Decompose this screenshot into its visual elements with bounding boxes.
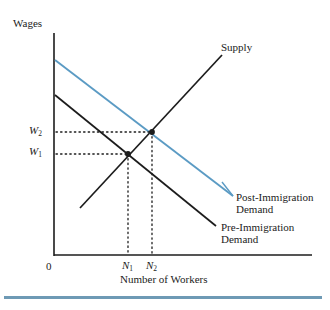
wage-tick-w1-subscript: 1 (38, 150, 42, 159)
bottom-divider (4, 296, 322, 299)
workers-tick-n1: N1 (122, 260, 133, 272)
workers-tick-n2-subscript: 2 (153, 264, 157, 273)
post-immigration-demand-label-line1: Post-Immigration (236, 191, 314, 203)
equilibrium-point-pre (125, 151, 131, 157)
wage-tick-w2-base: W (29, 124, 38, 136)
pre-immigration-demand-curve (55, 95, 216, 226)
origin-label: 0 (46, 261, 52, 273)
wage-tick-w1-base: W (29, 145, 38, 157)
supply-demand-figure: Wages Supply Post-Immigration Demand Pre… (0, 0, 330, 310)
equilibrium-point-post (149, 129, 155, 135)
pre-immigration-demand-label: Pre-Immigration Demand (221, 221, 294, 246)
workers-tick-n1-subscript: 1 (129, 264, 133, 273)
post-immigration-demand-label: Post-Immigration Demand (236, 191, 314, 216)
x-axis-label: Number of Workers (120, 274, 208, 286)
workers-tick-n2: N2 (146, 260, 157, 272)
supply-curve-label: Supply (221, 42, 252, 54)
wage-tick-w2-subscript: 2 (38, 129, 42, 138)
post-immigration-demand-label-line2: Demand (236, 203, 314, 215)
y-axis-label: Wages (13, 18, 42, 30)
pre-immigration-demand-label-line2: Demand (221, 233, 294, 245)
pre-immigration-demand-label-line1: Pre-Immigration (221, 221, 294, 233)
wage-tick-w2: W2 (29, 125, 42, 137)
wage-tick-w1: W1 (29, 146, 42, 158)
post-immigration-demand-curve (55, 60, 233, 196)
